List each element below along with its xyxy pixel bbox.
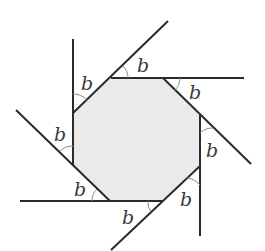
angle-arc-bottom-right [187, 178, 200, 185]
angle-arc-bottom-left [92, 189, 97, 201]
angle-label-bottom: b [122, 206, 134, 228]
angle-arc-bottom [148, 201, 151, 212]
angle-arc-top [123, 66, 128, 78]
angle-label-bottom-left: b [74, 178, 86, 200]
angle-label-right: b [206, 139, 218, 161]
angle-label-top-right: b [189, 81, 201, 103]
angle-label-bottom-right: b [180, 188, 192, 210]
angle-arc-left [60, 146, 73, 151]
angle-label-top-left: b [81, 72, 93, 94]
octagon-exterior-angles-diagram: b b b b b b b b [0, 0, 265, 251]
angle-arc-top-right [175, 78, 180, 90]
angle-label-left: b [54, 123, 66, 145]
angle-arc-top-left [73, 94, 87, 100]
angle-arc-right [200, 128, 213, 133]
angle-label-top: b [137, 54, 149, 76]
